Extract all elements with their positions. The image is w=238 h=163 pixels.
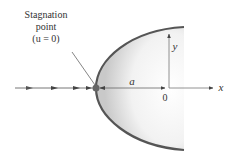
flow-arrow-icon: [86, 86, 92, 90]
stagnation-point-marker: [93, 85, 100, 92]
flow-arrow-icon: [73, 86, 80, 90]
y-axis-label: y: [172, 40, 178, 52]
stagnation-flow-diagram: Stagnation point (u = 0) a 0 x y: [0, 0, 238, 163]
stagnation-label-line2: point: [36, 21, 57, 32]
incoming-streamline: [15, 86, 94, 90]
origin-label: 0: [163, 92, 168, 103]
stagnation-label-line3: (u = 0): [32, 33, 59, 45]
flow-arrow-icon: [26, 86, 33, 90]
x-axis-label: x: [218, 81, 224, 93]
distance-label: a: [129, 75, 135, 87]
stagnation-label-line1: Stagnation: [25, 9, 68, 20]
body-shape: [96, 27, 184, 150]
flow-arrow-icon: [51, 86, 58, 90]
stagnation-leader-line: [72, 52, 95, 85]
